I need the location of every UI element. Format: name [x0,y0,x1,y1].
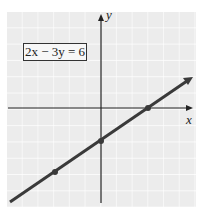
equation-label: 2x − 3y = 6 [23,43,87,61]
point-y-intercept [98,138,104,144]
x-axis-label: x [186,113,192,126]
point-x-intercept [145,105,151,111]
graph-canvas [0,0,206,217]
point-neg3-neg4 [52,169,58,175]
y-axis-label: y [106,8,112,21]
